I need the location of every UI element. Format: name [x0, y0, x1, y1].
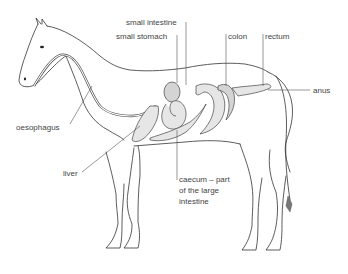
- horse-digestive-diagram: small intestine small stomach colon rect…: [0, 0, 348, 274]
- eye: [40, 46, 44, 49]
- organs: [132, 82, 271, 142]
- label-caecum-3: intestine: [179, 197, 209, 206]
- label-oesophagus: oesophagus: [16, 123, 60, 132]
- stomach-organ: [164, 82, 180, 102]
- oesophagus-tube: [34, 55, 156, 116]
- nostril: [24, 78, 26, 81]
- colon-organ: [196, 84, 225, 134]
- label-small-stomach: small stomach: [116, 32, 167, 41]
- horse-outline: [19, 18, 293, 250]
- diagram-canvas: small intestine small stomach colon rect…: [0, 0, 348, 274]
- label-colon: colon: [228, 32, 247, 41]
- tail-tuft: [286, 196, 292, 212]
- leader-lines: [70, 22, 310, 180]
- small-intestine-organ: [162, 101, 186, 129]
- label-rectum: rectum: [265, 32, 290, 41]
- label-liver: liver: [63, 169, 78, 178]
- rectum-organ: [232, 84, 271, 96]
- label-small-intestine: small intestine: [126, 18, 177, 27]
- label-anus: anus: [313, 86, 330, 95]
- label-caecum-1: caecum – part: [179, 175, 230, 184]
- label-caecum-2: of the large: [179, 186, 220, 195]
